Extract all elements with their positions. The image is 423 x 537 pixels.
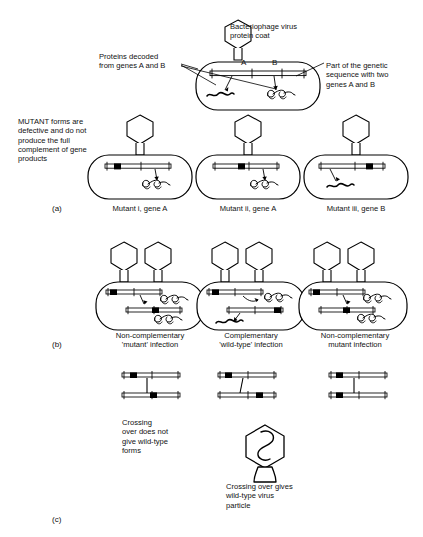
panel-c-tag: (c): [52, 515, 61, 524]
crossover-pair-2: [218, 371, 276, 399]
panel-a-cells: [88, 115, 408, 199]
panel-a-caption-3: Mutant iii, gene B: [304, 204, 408, 213]
bacterial-cell: [196, 62, 320, 110]
wild-type-virus-particle: [246, 425, 284, 482]
panel-a-caption-2: Mutant ii, gene A: [196, 204, 300, 213]
panel-a-tag: (a): [52, 204, 62, 213]
annotation-phage-coat: Bacteriophage virus protein coat: [230, 22, 297, 41]
annotation-proteins-decoded: Proteins decoded from genes A and B: [99, 52, 165, 71]
crossover-pair-1: [122, 371, 180, 399]
annotation-mutant-note: MUTANT forms are defective and do not pr…: [18, 117, 87, 163]
panel-b-tag: (b): [52, 340, 62, 349]
panel-c-caption-left: Crossing over does not give wild-type fo…: [122, 418, 168, 455]
gene-b-label: B: [272, 58, 277, 67]
crossover-pair-3: [329, 371, 387, 399]
panel-c-caption-bottom: Crossing over gives wild-type virus part…: [226, 482, 293, 510]
panel-b-caption-3-line2: mutant infection: [292, 340, 418, 349]
mutant-cell-3: [304, 115, 408, 199]
panel-b-cells: [96, 242, 407, 330]
panel-a-caption-1: Mutant i, gene A: [88, 204, 192, 213]
mutant-cell-2: [196, 115, 300, 199]
gene-a-label: A: [241, 58, 246, 67]
coinfected-cell-3: [299, 242, 407, 330]
coinfected-cell-2: [197, 242, 305, 330]
annotation-genetic-sequence: Part of the genetic sequence with two ge…: [326, 61, 388, 89]
coinfected-cell-1: [96, 242, 204, 330]
panel-b-caption-3-line1: Non-complementary: [292, 331, 418, 340]
mutant-cell-1: [88, 115, 192, 199]
phage-complementation-figure: Bacteriophage virus protein coat Protein…: [0, 0, 423, 537]
